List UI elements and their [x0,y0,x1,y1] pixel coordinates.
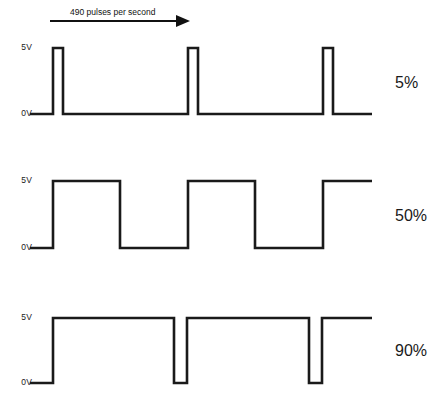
waveform-trace-5-percent [30,48,372,114]
duty-cycle-label-50-percent: 50% [395,207,427,225]
axis-label-high-row3: 5V [8,312,32,322]
duty-cycle-label-90-percent: 90% [395,342,427,360]
axis-label-low-row3: 0V [8,377,32,387]
axis-label-low-row1: 0V [8,108,32,118]
waveform-trace-50-percent [30,181,372,248]
duty-cycle-label-5-percent: 5% [395,74,418,92]
pwm-duty-cycle-diagram: 490 pulses per second 5V 0V 5% 5V 0V 50%… [0,0,447,399]
axis-label-high-row1: 5V [8,42,32,52]
axis-label-low-row2: 0V [8,242,32,252]
waveform-canvas [0,0,447,399]
axis-label-high-row2: 5V [8,175,32,185]
waveform-trace-90-percent [30,318,372,383]
rate-arrow-head-icon [176,15,190,27]
pulse-rate-label: 490 pulses per second [70,7,156,17]
